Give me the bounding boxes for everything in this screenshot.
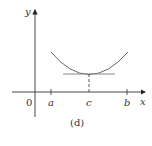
x-axis-label: x [140,96,146,107]
figure-caption: (d) [70,117,84,128]
figure-d: y x 0 a c b (d) [0,0,152,146]
tick-label-b: b [124,97,130,108]
origin-label: 0 [26,97,32,108]
tick-label-a: a [48,97,54,108]
tick-label-c: c [86,97,92,108]
y-axis-label: y [24,6,31,17]
convex-curve [51,52,128,75]
